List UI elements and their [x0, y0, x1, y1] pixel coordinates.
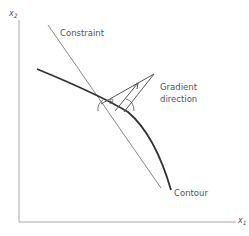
angle-arc-left: [98, 100, 103, 111]
constraint-line: [48, 25, 161, 188]
gradient-direction-arrow: [115, 83, 138, 111]
contour-curve: [37, 69, 171, 190]
x-axis-label: x1: [237, 216, 247, 226]
optimization-diagram: x2 x1 Constraint Contour θ Gradient dire…: [0, 0, 249, 236]
contour-label: Contour: [174, 188, 208, 198]
y-axis-label: x2: [8, 9, 18, 19]
angle-theta-label: θ: [109, 98, 114, 106]
constraint-label: Constraint: [60, 28, 105, 38]
gradient-direction-label: Gradient direction: [160, 82, 200, 104]
gradient-arrow-line: [124, 74, 154, 112]
